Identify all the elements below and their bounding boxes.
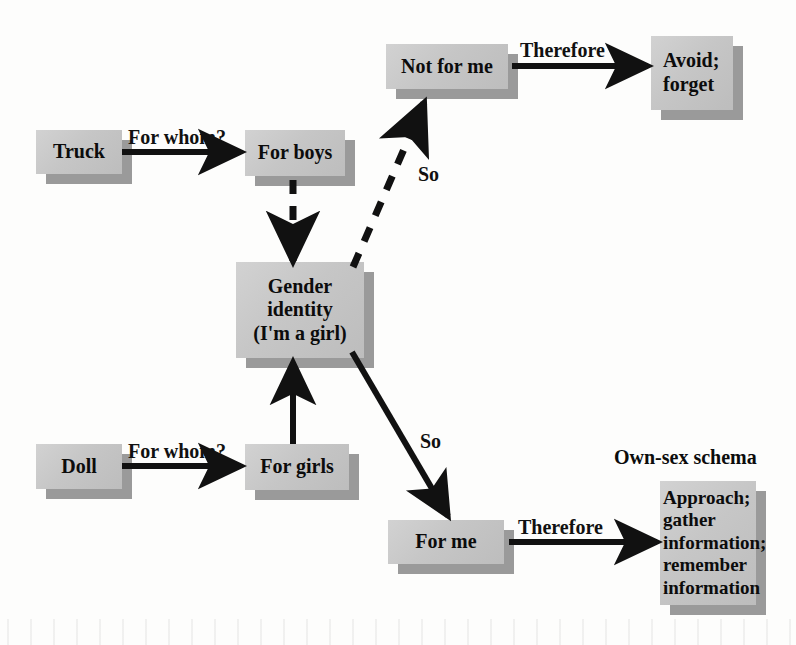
own-sex-schema-caption: Own-sex schema — [614, 446, 757, 469]
edge-label-for-me-to-own-sex-schema: Therefore — [518, 516, 603, 539]
node-label: For boys — [252, 141, 339, 165]
node-gender-identity[interactable]: Gender identity (I'm a girl) — [236, 262, 364, 358]
node-avoid-forget[interactable]: Avoid; forget — [651, 36, 733, 110]
node-label: For me — [409, 530, 482, 554]
node-own-sex-schema[interactable]: Approach; gather information; remember i… — [660, 481, 756, 605]
node-label: Not for me — [395, 55, 499, 79]
node-label: For girls — [254, 455, 340, 479]
scan-artifact — [0, 619, 796, 645]
edge-label-gender-identity-to-not-for-me: So — [418, 163, 439, 186]
edge-label-doll-to-for-girls: For whom? — [128, 440, 226, 463]
node-for-girls[interactable]: For girls — [245, 444, 349, 490]
arrow-gender-identity-to-not-for-me — [353, 103, 424, 267]
node-label: Truck — [47, 140, 111, 164]
edge-label-gender-identity-to-for-me: So — [420, 430, 441, 453]
node-not-for-me[interactable]: Not for me — [386, 44, 508, 89]
edge-label-not-for-me-to-avoid-forget: Therefore — [520, 39, 605, 62]
node-label: Approach; gather information; remember i… — [651, 487, 765, 599]
node-for-boys[interactable]: For boys — [245, 130, 345, 176]
node-label: Gender identity (I'm a girl) — [247, 275, 352, 346]
node-for-me[interactable]: For me — [388, 520, 504, 564]
node-doll[interactable]: Doll — [36, 444, 122, 489]
node-label: Avoid; forget — [651, 49, 733, 96]
diagram-canvas: Truck For boys Doll For girls Gender ide… — [0, 0, 796, 645]
node-truck[interactable]: Truck — [36, 130, 122, 174]
node-label: Doll — [55, 455, 103, 479]
edge-label-truck-to-for-boys: For whom? — [128, 126, 226, 149]
